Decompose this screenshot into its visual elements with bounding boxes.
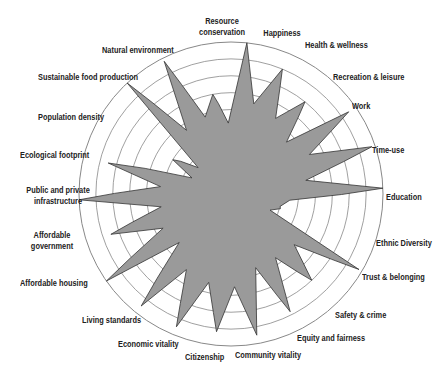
axis-label-line: Trust & belonging (362, 272, 428, 283)
axis-label: Economic vitality (118, 339, 184, 350)
axis-label-line: Public and private (25, 185, 91, 196)
axis-label: Natural environment (102, 45, 184, 56)
axis-label-line: Equity and fairness (297, 333, 371, 344)
axis-label-line: Community vitality (235, 350, 309, 361)
axis-label-line: Happiness (257, 28, 306, 39)
axis-label-line: Health & wellness (305, 40, 371, 51)
axis-label-line: Natural environment (102, 45, 184, 56)
axis-label-line: Living standards (82, 315, 148, 326)
axis-label-line: Affordable (27, 230, 76, 241)
axis-label-line: Ecological footprint (20, 150, 94, 161)
axis-label-line: Population density (38, 112, 112, 123)
axis-label-line: Citizenship (185, 352, 234, 363)
axis-label: Happiness (257, 28, 306, 39)
axis-label: Ethnic Diversity (376, 238, 433, 249)
axis-label-line: Affordable housing (20, 278, 94, 289)
axis-label: Ecological footprint (20, 150, 94, 161)
axis-label-line: government (27, 241, 76, 252)
axis-label-line: Education (386, 192, 435, 203)
axis-label: Public and privateinfrastructure (25, 185, 91, 207)
axis-label: Sustainable food production (38, 72, 145, 83)
axis-label-line: Recreation & leisure (333, 72, 415, 83)
axis-label-line: Economic vitality (118, 339, 184, 350)
axis-label-line: Work (352, 101, 385, 112)
axis-label-line: Ethnic Diversity (376, 238, 433, 249)
axis-label: Affordable housing (20, 278, 94, 289)
axis-label: Resourceconservation (197, 16, 246, 38)
axis-label: Safety & crime (335, 310, 392, 321)
axis-label: Affordablegovernment (27, 230, 76, 252)
axis-label: Equity and fairness (297, 333, 371, 344)
axis-label: Population density (38, 112, 112, 123)
radar-data-shape (79, 43, 383, 335)
axis-label: Education (386, 192, 435, 203)
axis-label-line: conservation (197, 27, 246, 38)
axis-label-line: Safety & crime (335, 310, 392, 321)
axis-label-line: Time-use (372, 145, 421, 156)
axis-label: Trust & belonging (362, 272, 428, 283)
axis-label: Time-use (372, 145, 421, 156)
axis-label: Recreation & leisure (333, 72, 415, 83)
axis-label-line: Resource (197, 16, 246, 27)
axis-label-line: infrastructure (25, 196, 91, 207)
axis-label: Work (352, 101, 385, 112)
axis-label: Citizenship (185, 352, 234, 363)
axis-label: Community vitality (235, 350, 309, 361)
axis-label-line: Sustainable food production (38, 72, 145, 83)
axis-label: Health & wellness (305, 40, 371, 51)
axis-label: Living standards (82, 315, 148, 326)
